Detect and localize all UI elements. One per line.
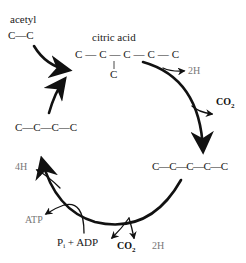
citric-acid-chain: C—C—C—C—C [75, 48, 179, 60]
pi-adp-label: Pi + ADP [57, 236, 98, 250]
release-2h-top: 2H [188, 65, 200, 76]
acetyl-entry-arrow [34, 46, 68, 70]
acetyl-formula: C—C [8, 29, 34, 41]
citric-acid-cycle-diagram: acetyl C—C citric acid C—C—C—C—C C 2H CO… [0, 0, 246, 263]
five-carbon-compound: C—C—C—C—C [152, 160, 228, 172]
release-2h-bottom: 2H [152, 240, 164, 251]
release-co2-right: CO2 [216, 96, 235, 110]
atp-label: ATP [25, 214, 43, 225]
release-4h: 4H [15, 161, 27, 172]
release-co2-bottom: CO2 [117, 240, 136, 254]
citric-acid-branch: C [110, 68, 117, 80]
cycle-arc-c4-to-citric [49, 80, 64, 113]
citric-acid-label: citric acid [92, 31, 136, 43]
atp-formation-arrow [46, 204, 84, 233]
release-co2-arrow-bottom [112, 218, 129, 238]
acetyl-label: acetyl [10, 13, 36, 25]
four-carbon-compound: C—C—C—C [15, 121, 77, 133]
